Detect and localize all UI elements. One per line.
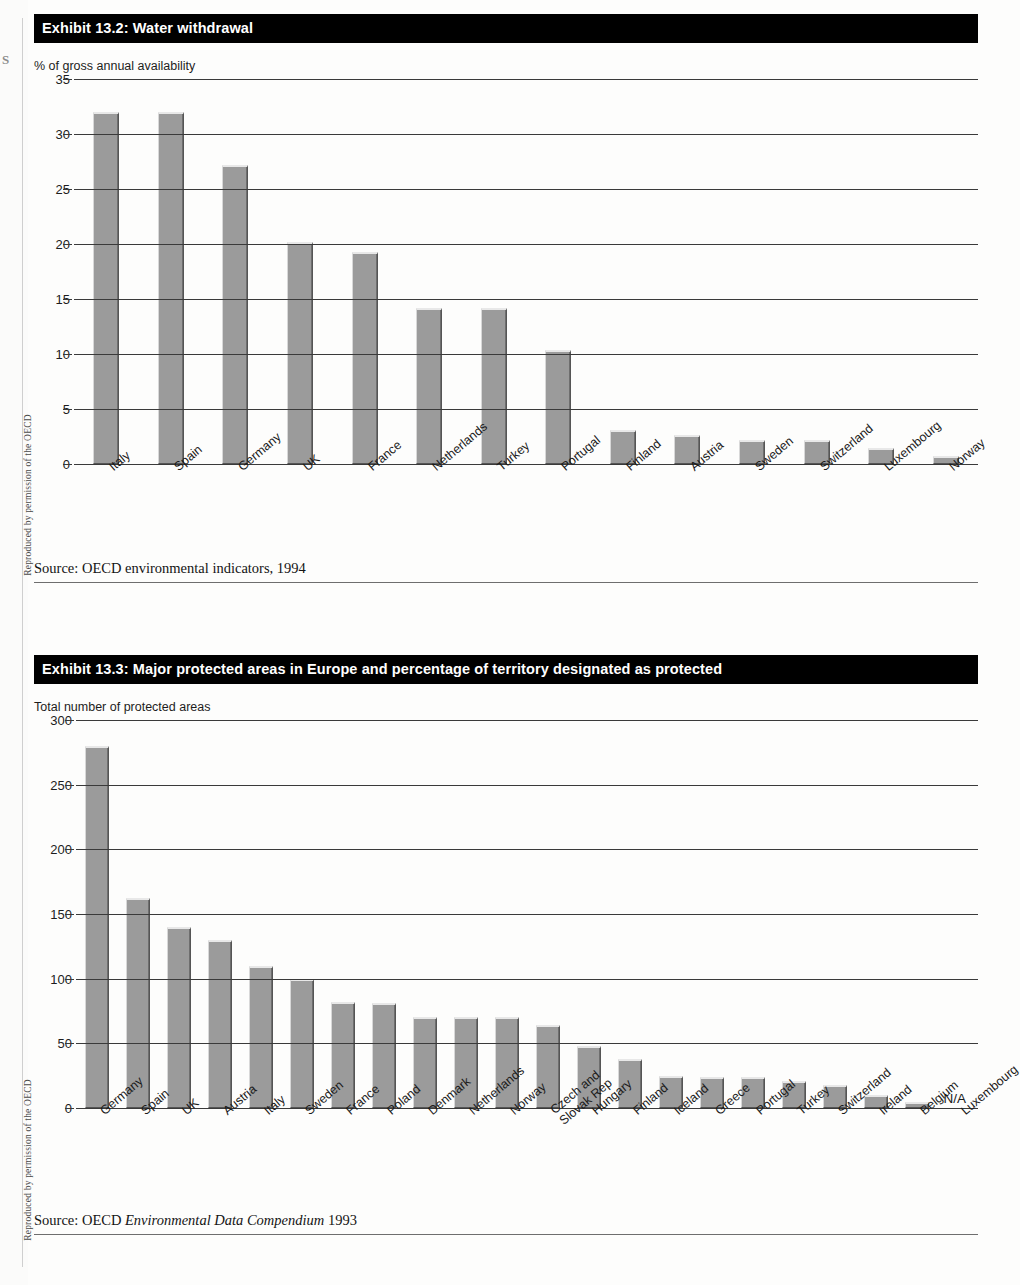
exhibit-13-3: Exhibit 13.3: Major protected areas in E… [34, 655, 978, 1235]
chart-protected-areas: 050100150200250300 N/A GermanySpainUKAus… [34, 720, 978, 1208]
gridline [76, 720, 978, 721]
gridline [76, 849, 978, 850]
margin-credit-top: Reproduced by permission of the OECD [23, 385, 33, 605]
margin-credit-bottom: Reproduced by permission of the OECD [23, 1050, 33, 1270]
exhibit-13-2-axis-caption: % of gross annual availability [34, 59, 978, 73]
y-axis-tick [65, 785, 74, 786]
y-axis-tick [63, 354, 72, 355]
gridline [74, 79, 978, 80]
gridline [76, 979, 978, 980]
source-italic-title: Environmental Data Compendium [125, 1212, 324, 1228]
page-folio: S [2, 52, 9, 68]
bar [222, 165, 248, 464]
y-axis-tick [63, 134, 72, 135]
chart-1-x-axis: ItalySpainGermanyUKFranceNetherlandsTurk… [74, 464, 978, 554]
chart-1-y-axis: 05101520253035 [34, 79, 70, 464]
exhibit-13-2: Exhibit 13.2: Water withdrawal % of gros… [34, 14, 978, 583]
gridline [74, 354, 978, 355]
exhibit-13-2-rule [34, 582, 978, 583]
gridline [74, 189, 978, 190]
bar [545, 350, 571, 464]
exhibit-13-3-rule [34, 1234, 978, 1235]
bar [287, 242, 313, 464]
bar [167, 927, 191, 1108]
y-axis-tick [63, 79, 72, 80]
y-axis-tick [65, 1108, 74, 1109]
exhibit-13-3-source: Source: OECD Environmental Data Compendi… [34, 1212, 978, 1234]
page-content: Exhibit 13.2: Water withdrawal % of gros… [34, 0, 1012, 1285]
gridline [74, 299, 978, 300]
exhibit-13-2-source: Source: OECD environmental indicators, 1… [34, 560, 978, 582]
bar [352, 252, 378, 464]
exhibit-13-3-title: Exhibit 13.3: Major protected areas in E… [34, 655, 978, 684]
y-axis-tick [65, 1043, 74, 1044]
gridline [74, 409, 978, 410]
chart-water-withdrawal: 05101520253035 ItalySpainGermanyUKFrance… [34, 79, 978, 554]
y-axis-tick [65, 720, 74, 721]
gridline [76, 914, 978, 915]
y-axis-tick [63, 409, 72, 410]
y-axis-tick [65, 979, 74, 980]
bar [416, 308, 442, 464]
source-tail: 1993 [324, 1212, 357, 1228]
y-axis-tick [63, 299, 72, 300]
y-axis-tick [63, 244, 72, 245]
chart-1-plot-area: 05101520253035 [74, 79, 978, 464]
y-axis-tick [65, 914, 74, 915]
source-lead: Source: OECD [34, 1212, 125, 1228]
chart-2-plot-area: 050100150200250300 N/A [76, 720, 978, 1108]
exhibit-13-3-axis-caption: Total number of protected areas [34, 700, 978, 714]
chart-1-bars [74, 79, 978, 464]
gridline [76, 1043, 978, 1044]
exhibit-13-2-title: Exhibit 13.2: Water withdrawal [34, 14, 978, 43]
gridline [74, 134, 978, 135]
gridline [76, 785, 978, 786]
bar [158, 112, 184, 464]
bar [481, 308, 507, 464]
bar [208, 940, 232, 1108]
y-axis-tick [63, 464, 72, 465]
chart-2-x-axis: GermanySpainUKAustriaItalySwedenFrancePo… [76, 1108, 978, 1208]
gridline [74, 244, 978, 245]
bar [85, 746, 109, 1108]
y-axis-tick [65, 849, 74, 850]
y-axis-tick [63, 189, 72, 190]
bar [93, 112, 119, 464]
